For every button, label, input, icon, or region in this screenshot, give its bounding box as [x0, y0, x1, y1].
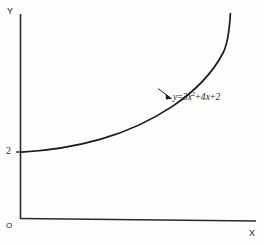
y-axis-label: Y	[7, 7, 13, 16]
plot-area	[0, 0, 264, 245]
annotation-arrowhead	[166, 94, 172, 100]
equation-annotation: y=3x2+4x+2	[173, 92, 220, 102]
equation-term3: 2	[215, 92, 220, 102]
parabola-curve	[21, 14, 230, 153]
x-axis-line	[20, 219, 256, 222]
origin-label: O	[6, 222, 12, 230]
chart-figure: Y X O 2 y=3x2+4x+2	[0, 0, 264, 245]
y-tick-label: 2	[6, 146, 11, 156]
x-axis-label: X	[249, 229, 255, 238]
